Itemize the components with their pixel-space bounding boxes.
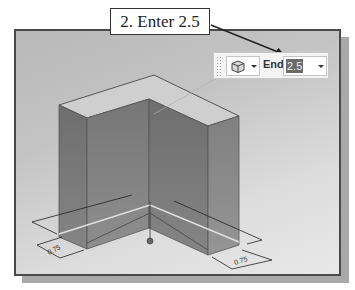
chevron-down-icon[interactable] [318,65,324,68]
depth-value-input[interactable]: 2.5 [283,56,327,76]
toolbar-grip-handle[interactable] [216,56,222,76]
chevron-down-icon [251,65,257,68]
extrude-solid-icon [231,60,245,73]
extrude-type-dropdown[interactable] [226,56,260,76]
depth-value-text[interactable]: 2.5 [286,59,303,73]
callout-text: 2. Enter 2.5 [120,12,199,32]
depth-label: End [263,58,284,70]
callout-arrow [0,0,355,290]
extrude-mini-toolbar: End 2.5 [213,52,329,79]
instruction-callout: 2. Enter 2.5 [110,8,210,35]
